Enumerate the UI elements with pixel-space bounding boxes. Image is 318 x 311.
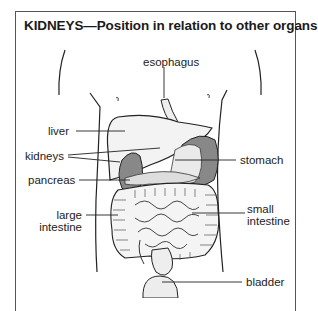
label-liver: liver: [48, 125, 69, 137]
label-bladder: bladder: [246, 276, 284, 288]
label-large-intestine-line1: large: [40, 209, 82, 221]
label-esophagus: esophagus: [143, 56, 199, 68]
label-stomach: stomach: [240, 154, 283, 166]
bladder-shape: [143, 276, 178, 298]
label-small-intestine-line2: intestine: [247, 215, 290, 227]
label-kidneys: kidneys: [25, 150, 64, 162]
label-pancreas: pancreas: [28, 174, 75, 186]
label-small-intestine-line1: small: [247, 203, 274, 215]
rectum-shape: [152, 248, 173, 275]
label-large-intestine-line2: intestine: [30, 221, 82, 233]
